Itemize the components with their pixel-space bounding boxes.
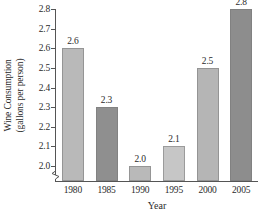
y-tick-label: 2.6 [26,43,50,53]
wine-consumption-bar-chart: Wine Consumption (gallons per person) 2.… [0,0,266,224]
bar-rect [230,9,252,181]
y-tick-label: 2.7 [26,24,50,34]
bar-rect [62,48,84,181]
y-tick-label: 2.3 [26,102,50,112]
bar-rect [197,68,219,181]
y-tick-label: 2.1 [26,141,50,151]
bar-rect [129,166,151,181]
y-axis-label-line2: (gallons per person) [15,58,27,132]
y-tick-label: 2.8 [26,4,50,14]
bar: 2.3 [96,107,118,181]
y-axis-tick-labels: 2.82.72.62.52.42.32.22.12.0 [26,0,50,190]
bar-value-label: 2.1 [168,134,179,144]
x-tick-label: 1980 [64,184,82,196]
bar: 2.0 [129,166,151,181]
bar: 2.5 [197,68,219,181]
x-tick-label: 1990 [131,184,149,196]
x-tick-label: 2000 [198,184,216,196]
bar-value-label: 2.0 [135,154,146,164]
y-tick-label: 2.4 [26,83,50,93]
x-axis-line [55,181,258,182]
bar-value-label: 2.3 [101,95,112,105]
bar-value-label: 2.8 [236,0,247,7]
bar: 2.1 [163,146,185,181]
x-tick-label: 1985 [97,184,115,196]
bar-rect [96,107,118,181]
x-tick-label: 1995 [165,184,183,196]
x-axis-label: Year [56,200,258,212]
plot-area: 2.62.32.02.12.52.8 [56,9,258,181]
bar: 2.6 [62,48,84,181]
bar: 2.8 [230,9,252,181]
x-tick-label: 2005 [232,184,250,196]
y-tick-label: 2.2 [26,122,50,132]
y-tick-label: 2.5 [26,63,50,73]
bar-value-label: 2.5 [202,56,213,66]
bar-value-label: 2.6 [67,36,78,46]
y-axis-label-line1: Wine Consumption [4,59,14,131]
y-tick-label: 2.0 [26,161,50,171]
x-axis-tick-labels: 198019851990199520002005 [56,184,258,200]
bar-rect [163,146,185,181]
